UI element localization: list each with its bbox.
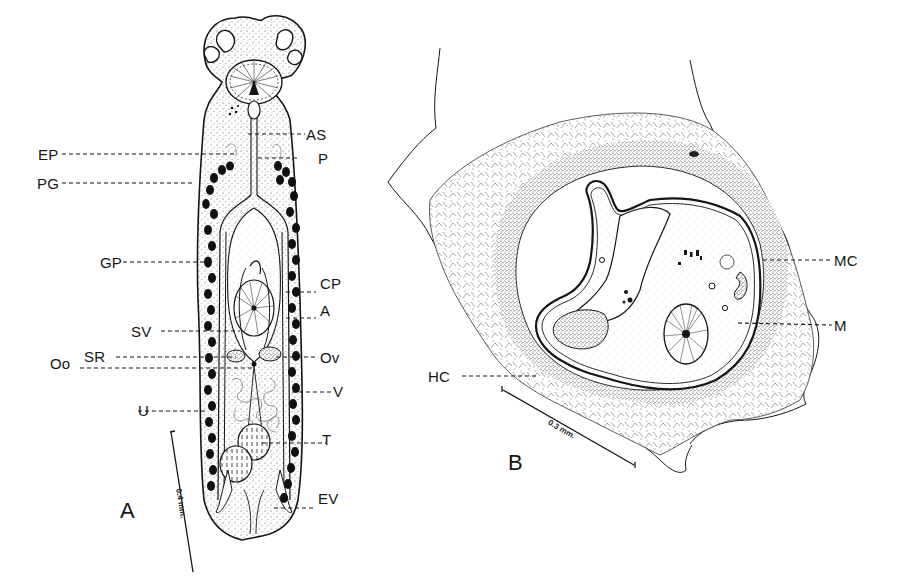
label-u: U bbox=[138, 403, 149, 418]
panel-label-b: B bbox=[508, 452, 523, 474]
label-t: T bbox=[322, 432, 331, 447]
scientific-figure: EP PG GP SV SR Oo U AS P CP A Ov V T EV … bbox=[0, 0, 915, 578]
label-v: V bbox=[333, 384, 343, 399]
panel-a-drawing bbox=[0, 0, 915, 578]
label-pg: PG bbox=[37, 176, 59, 191]
label-ep: EP bbox=[38, 147, 58, 162]
label-a: A bbox=[320, 303, 330, 318]
label-mc: MC bbox=[834, 253, 858, 268]
label-ov: Ov bbox=[320, 350, 340, 365]
panel-label-a: A bbox=[120, 500, 135, 522]
label-p: P bbox=[318, 151, 328, 166]
label-cp: CP bbox=[320, 276, 341, 291]
label-sv: SV bbox=[131, 324, 151, 339]
label-m: M bbox=[834, 318, 847, 333]
label-gp: GP bbox=[100, 255, 122, 270]
label-hc: HC bbox=[428, 369, 450, 384]
label-ev: EV bbox=[318, 491, 338, 506]
label-sr: SR bbox=[84, 349, 105, 364]
label-oo: Oo bbox=[50, 356, 70, 371]
label-as: AS bbox=[306, 127, 326, 142]
